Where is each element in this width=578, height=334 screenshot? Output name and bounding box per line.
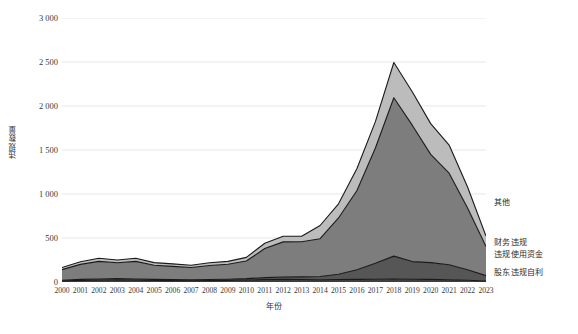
x-tick-label: 2013 xyxy=(294,285,309,296)
x-tick-label: 2008 xyxy=(202,285,217,296)
x-tick-label: 2009 xyxy=(220,285,235,296)
x-tick-label: 2001 xyxy=(73,285,88,296)
legend-label: 其他 xyxy=(494,198,511,208)
chart-legend: 其他财务违规违规使用资金股东违规自利 xyxy=(490,0,578,334)
y-tick-label: 2 000 xyxy=(16,102,58,111)
legend-label: 财务违规 xyxy=(494,238,527,248)
x-tick-label: 2000 xyxy=(54,285,69,296)
x-tick-label: 2017 xyxy=(368,285,383,296)
x-axis-title: 年份 xyxy=(62,300,486,311)
legend-label: 股东违规自利 xyxy=(494,268,544,278)
area-bands xyxy=(62,63,486,282)
x-tick-label: 2002 xyxy=(91,285,106,296)
x-tick-label: 2015 xyxy=(331,285,346,296)
y-tick-label: 500 xyxy=(16,234,58,243)
x-tick-label: 2003 xyxy=(110,285,125,296)
x-tick-label: 2006 xyxy=(165,285,180,296)
y-tick-label: 0 xyxy=(16,278,58,287)
y-tick-label: 1 500 xyxy=(16,146,58,155)
stacked-area-chart: 违规数量 05001 0001 5002 0002 5003 000 20002… xyxy=(0,0,578,334)
x-tick-label: 2012 xyxy=(276,285,291,296)
x-tick-label: 2018 xyxy=(386,285,401,296)
x-tick-label: 2011 xyxy=(257,285,272,296)
y-tick-label: 3 000 xyxy=(16,14,58,23)
y-tick-label: 2 500 xyxy=(16,58,58,67)
x-tick-label: 2010 xyxy=(239,285,254,296)
legend-label: 违规使用资金 xyxy=(494,250,544,260)
x-tick-label: 2007 xyxy=(183,285,198,296)
y-tick-label: 1 000 xyxy=(16,190,58,199)
area-chart-svg xyxy=(62,18,486,282)
x-tick-label: 2016 xyxy=(349,285,364,296)
x-axis-tick-labels: 2000200120022003200420052006200720082009… xyxy=(62,285,486,297)
x-tick-label: 2019 xyxy=(405,285,420,296)
x-tick-label: 2021 xyxy=(442,285,457,296)
x-tick-label: 2005 xyxy=(147,285,162,296)
x-tick-label: 2020 xyxy=(423,285,438,296)
x-tick-label: 2022 xyxy=(460,285,475,296)
y-axis-tick-labels: 05001 0001 5002 0002 5003 000 xyxy=(14,0,58,334)
x-tick-label: 2014 xyxy=(312,285,327,296)
plot-area xyxy=(62,18,486,282)
x-tick-label: 2004 xyxy=(128,285,143,296)
